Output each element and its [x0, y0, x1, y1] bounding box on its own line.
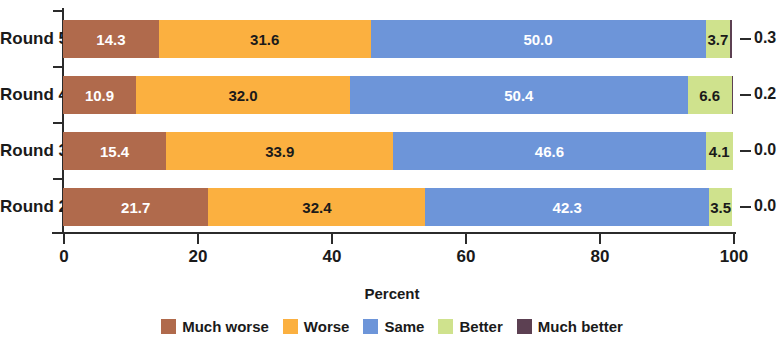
much-better-value-label: 0.0 — [754, 141, 776, 159]
chart-legend: Much worseWorseSameBetterMuch better — [0, 318, 784, 335]
bar-segment-value: 10.9 — [85, 87, 114, 104]
y-axis-tick — [53, 122, 63, 124]
bar-segment — [732, 76, 733, 114]
annotation-leader-line — [740, 38, 751, 40]
x-axis-tick-label: 20 — [189, 247, 208, 267]
bar-row: 10.932.050.46.6 — [63, 76, 733, 114]
legend-item[interactable]: Same — [363, 318, 424, 335]
much-better-value-label: 0.0 — [754, 197, 776, 215]
bar-segment-value: 50.4 — [504, 87, 533, 104]
legend-label: Better — [459, 318, 502, 335]
bar-segment: 14.3 — [63, 20, 159, 58]
legend-swatch-icon — [517, 319, 532, 334]
bar-segment-value: 32.0 — [228, 87, 257, 104]
bar-segment-value: 42.3 — [553, 199, 582, 216]
bar-segment-value: 3.5 — [710, 199, 731, 216]
bar-row: 15.433.946.64.1 — [63, 132, 733, 170]
bar-segment: 3.7 — [706, 20, 731, 58]
much-better-value-label: 0.3 — [754, 29, 776, 47]
x-axis-tick — [733, 234, 735, 244]
bar-segment-value: 15.4 — [100, 143, 129, 160]
annotation-leader-line — [740, 94, 751, 96]
bar-row: 21.732.442.33.5 — [63, 188, 733, 226]
legend-swatch-icon — [438, 319, 453, 334]
legend-item[interactable]: Much worse — [161, 318, 269, 335]
legend-label: Much worse — [182, 318, 269, 335]
legend-label: Worse — [304, 318, 350, 335]
legend-item[interactable]: Much better — [517, 318, 623, 335]
y-axis-tick-label: Round 4 — [0, 85, 58, 105]
annotation-leader-line — [740, 206, 751, 208]
x-axis-title: Percent — [0, 285, 784, 302]
bar-segment-value: 21.7 — [121, 199, 150, 216]
y-axis-tick-label: Round 5 — [0, 29, 58, 49]
x-axis-tick — [599, 234, 601, 244]
bar-row: 14.331.650.03.7 — [63, 20, 733, 58]
stacked-bar-chart: Round 5Round 4Round 3Round 2 14.331.650.… — [0, 0, 784, 346]
bar-segment-value: 4.1 — [709, 143, 730, 160]
legend-swatch-icon — [363, 319, 378, 334]
y-axis-tick-label: Round 2 — [0, 197, 58, 217]
x-axis-tick — [465, 234, 467, 244]
x-axis-tick-label: 40 — [323, 247, 342, 267]
legend-label: Same — [384, 318, 424, 335]
bar-segment: 46.6 — [393, 132, 705, 170]
bar-segment: 15.4 — [63, 132, 166, 170]
annotation-leader-line — [740, 150, 751, 152]
x-axis-tick — [63, 234, 65, 244]
bar-segment — [730, 20, 732, 58]
bar-segment: 6.6 — [688, 76, 732, 114]
x-axis-tick-label: 0 — [59, 247, 68, 267]
y-axis-tick — [53, 232, 63, 234]
x-axis-tick — [331, 234, 333, 244]
bar-segment-value: 14.3 — [96, 31, 125, 48]
bar-segment-value: 50.0 — [523, 31, 552, 48]
bar-segment: 50.4 — [350, 76, 687, 114]
x-axis-line — [52, 232, 736, 234]
bar-segment-value: 33.9 — [265, 143, 294, 160]
x-axis-tick-label: 60 — [457, 247, 476, 267]
y-axis-tick — [53, 10, 63, 12]
bar-segment: 50.0 — [371, 20, 706, 58]
bar-segment-value: 32.4 — [302, 199, 331, 216]
bar-segment: 32.0 — [136, 76, 350, 114]
legend-swatch-icon — [161, 319, 176, 334]
x-axis-tick-label: 80 — [591, 247, 610, 267]
y-axis-tick — [53, 178, 63, 180]
bar-segment: 31.6 — [159, 20, 371, 58]
bar-segment: 33.9 — [166, 132, 393, 170]
bar-segment: 10.9 — [63, 76, 136, 114]
much-better-value-label: 0.2 — [754, 85, 776, 103]
y-axis-tick — [53, 66, 63, 68]
x-axis-tick-label: 100 — [720, 247, 748, 267]
legend-swatch-icon — [283, 319, 298, 334]
bar-segment: 42.3 — [425, 188, 708, 226]
bar-segment-value: 6.6 — [699, 87, 720, 104]
bar-segment: 21.7 — [63, 188, 208, 226]
bar-segment-value: 3.7 — [707, 31, 728, 48]
x-axis-tick — [197, 234, 199, 244]
legend-item[interactable]: Better — [438, 318, 502, 335]
bar-segment-value: 46.6 — [535, 143, 564, 160]
legend-item[interactable]: Worse — [283, 318, 350, 335]
bar-segment: 4.1 — [706, 132, 733, 170]
y-axis-tick-label: Round 3 — [0, 141, 58, 161]
bar-segment: 3.5 — [709, 188, 732, 226]
bar-segment-value: 31.6 — [250, 31, 279, 48]
legend-label: Much better — [538, 318, 623, 335]
bar-segment: 32.4 — [208, 188, 425, 226]
